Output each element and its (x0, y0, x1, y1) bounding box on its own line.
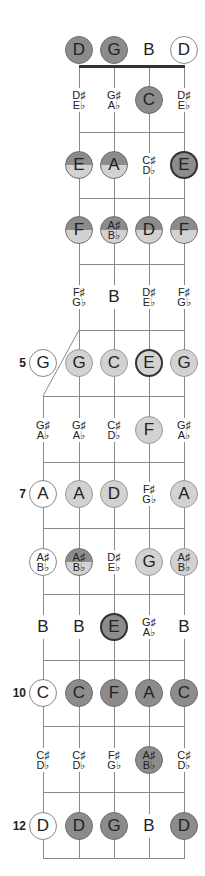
flat-name: D♭ (178, 760, 191, 770)
note-marker: D (170, 36, 198, 64)
note-marker: F♯G♭ (102, 748, 126, 772)
flat-name: A♭ (143, 627, 155, 637)
flat-name: A♭ (108, 100, 120, 110)
note-marker: G (65, 349, 93, 377)
flat-name: E♭ (73, 100, 85, 110)
note-marker: A♯B♭ (170, 548, 198, 576)
note-marker: D (135, 216, 163, 244)
fretboard-diagram: 571012DGBDD♯E♭G♯A♭CD♯E♭EAC♯D♭EFA♯B♭DFF♯G… (0, 0, 205, 876)
note-marker: F (170, 216, 198, 244)
flat-name: G♭ (107, 760, 121, 770)
note-marker: F♯G♭ (67, 285, 91, 309)
flat-name: D♭ (37, 760, 50, 770)
flat-name: E♭ (143, 297, 155, 307)
flat-name: B♭ (37, 562, 49, 572)
fret-number: 12 (6, 819, 26, 833)
note-marker: B (137, 814, 161, 838)
note-marker: G (170, 349, 198, 377)
note-marker: G♯A♭ (102, 88, 126, 112)
flat-name: G♭ (142, 494, 156, 504)
note-marker: A (65, 480, 93, 508)
flat-name: D♭ (143, 165, 156, 175)
note-marker: G (100, 36, 128, 64)
flat-name: A♭ (178, 430, 190, 440)
note-marker: B (102, 285, 126, 309)
note-marker: D (65, 812, 93, 840)
note-marker: F (100, 679, 128, 707)
flat-name: B♭ (178, 562, 190, 572)
note-marker: C♯D♭ (31, 748, 55, 772)
note-marker: D (100, 480, 128, 508)
note-marker: E (170, 151, 198, 179)
note-marker: A♯B♭ (65, 548, 93, 576)
note-marker: A (135, 679, 163, 707)
note-marker: E (65, 151, 93, 179)
note-marker: G (29, 349, 57, 377)
note-marker: B (137, 38, 161, 62)
note-marker: C (29, 679, 57, 707)
fret-number: 7 (6, 487, 26, 501)
note-marker: A♯B♭ (29, 548, 57, 576)
flat-name: E♭ (108, 562, 120, 572)
note-marker: E (135, 349, 163, 377)
note-marker: C♯D♭ (172, 748, 196, 772)
flat-name: E♭ (178, 100, 190, 110)
note-marker: C♯D♭ (67, 748, 91, 772)
flat-name: D♭ (108, 430, 121, 440)
flat-name: B♭ (143, 760, 155, 770)
note-marker: C (135, 86, 163, 114)
note-marker: G♯A♭ (137, 615, 161, 639)
note-marker: A (29, 480, 57, 508)
flat-name: B♭ (73, 562, 85, 572)
note-marker: C♯D♭ (102, 418, 126, 442)
fret-number: 10 (6, 686, 26, 700)
note-marker: C (100, 349, 128, 377)
note-marker: F (65, 216, 93, 244)
note-marker: D♯E♭ (137, 285, 161, 309)
note-marker: G♯A♭ (67, 418, 91, 442)
flat-name: A♭ (73, 430, 85, 440)
note-marker: F♯G♭ (172, 285, 196, 309)
fret-number: 5 (6, 356, 26, 370)
note-marker: F (135, 416, 163, 444)
note-marker: C (170, 679, 198, 707)
note-marker: D (170, 812, 198, 840)
note-marker: G (135, 548, 163, 576)
flat-name: G♭ (72, 297, 86, 307)
note-marker: A (170, 480, 198, 508)
flat-name: B♭ (108, 230, 120, 240)
note-marker: G (100, 812, 128, 840)
note-marker: G♯A♭ (172, 418, 196, 442)
note-marker: G♯A♭ (31, 418, 55, 442)
note-marker: C (65, 679, 93, 707)
note-marker: D♯E♭ (172, 88, 196, 112)
note-marker: D♯E♭ (67, 88, 91, 112)
flat-name: D♭ (73, 760, 86, 770)
flat-name: G♭ (177, 297, 191, 307)
note-marker: D (29, 812, 57, 840)
note-marker: A (100, 151, 128, 179)
note-marker: B (67, 615, 91, 639)
flat-name: A♭ (37, 430, 49, 440)
note-marker: C♯D♭ (137, 153, 161, 177)
note-marker: E (100, 613, 128, 641)
note-marker: B (172, 615, 196, 639)
note-marker: B (31, 615, 55, 639)
note-marker: A♯B♭ (135, 746, 163, 774)
note-marker: A♯B♭ (100, 216, 128, 244)
note-marker: F♯G♭ (137, 482, 161, 506)
note-marker: D (65, 36, 93, 64)
note-marker: D♯E♭ (102, 550, 126, 574)
